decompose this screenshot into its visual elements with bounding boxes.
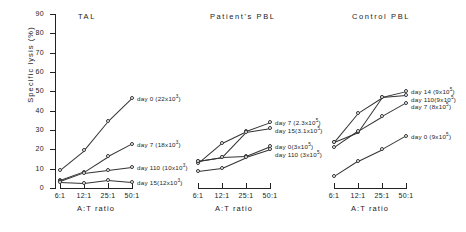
series-line-segment [108,144,132,157]
x-axis-line [60,188,132,189]
series-label-day-7: day 7 (8x105) [411,102,451,110]
data-point-marker[interactable] [404,101,408,105]
panel-title: TAL [78,12,96,21]
series-line-segment [358,116,383,131]
series-label-day-110: day 110 (10x103) [137,163,188,171]
x-tick-label: 25:1 [369,192,395,199]
figure-root: Specific lysis (%) 0102030405060708090 T… [0,0,466,232]
x-tick-label: 12:1 [345,192,371,199]
data-point-marker[interactable] [130,142,134,146]
data-point-marker[interactable] [332,145,336,149]
panel-title: Patient's PBL [210,12,276,21]
y-tick [50,53,56,54]
y-tick [50,111,56,112]
x-tick-label: 12:1 [71,192,97,199]
data-point-marker[interactable] [332,140,336,144]
series-line-segment [108,180,132,183]
x-tick-label: 50:1 [257,192,283,199]
data-point-marker[interactable] [106,178,110,182]
x-tick-label: 50:1 [393,192,419,199]
data-point-marker[interactable] [356,129,360,133]
data-point-marker[interactable] [268,126,272,130]
y-tick-label: 60 [18,68,44,75]
data-point-marker[interactable] [404,134,408,138]
series-line-segment [84,121,109,151]
data-point-marker[interactable] [58,168,62,172]
x-tick [198,183,199,189]
x-tick [108,183,109,189]
y-tick-label: 20 [18,145,44,152]
data-point-marker[interactable] [130,96,134,100]
y-tick-label: 90 [18,10,44,17]
x-tick-label: 6:1 [321,192,347,199]
x-tick [382,183,383,189]
data-point-marker[interactable] [82,171,86,175]
data-point-marker[interactable] [130,180,134,184]
data-point-marker[interactable] [106,119,110,123]
chart-panel-3: Control PBL6:112:125:150:1A:T ratioday 1… [334,0,466,232]
series-line-segment [358,149,382,162]
series-line-segment [222,157,246,169]
x-tick-label: 25:1 [95,192,121,199]
x-tick-label: 6:1 [185,192,211,199]
x-tick-label: 6:1 [47,192,73,199]
data-point-marker[interactable] [220,166,224,170]
series-label-day-15: day 15(12x103) [137,178,183,186]
data-point-marker[interactable] [332,174,336,178]
x-axis-label: A:T ratio [60,204,132,213]
x-axis-label: A:T ratio [334,204,406,213]
y-tick-label: 50 [18,87,44,94]
y-tick-label: 40 [18,107,44,114]
x-tick-label: 50:1 [119,192,145,199]
x-axis-line [198,188,270,189]
series-label-day-0: day 0 (22x103) [137,94,181,102]
data-point-marker[interactable] [196,169,200,173]
y-tick-label: 0 [18,184,44,191]
data-point-marker[interactable] [380,147,384,151]
series-line-segment [334,161,359,177]
data-point-marker[interactable] [268,120,272,124]
x-tick [406,183,407,189]
series-line-segment [198,168,222,172]
x-tick [222,183,223,189]
y-tick [50,149,56,150]
series-line-segment [382,103,406,117]
data-point-marker[interactable] [82,148,86,152]
data-point-marker[interactable] [404,93,408,97]
panel-title: Control PBL [352,12,410,21]
data-point-marker[interactable] [82,181,86,185]
x-tick [270,183,271,189]
data-point-marker[interactable] [244,155,248,159]
series-label-day-7: day 7 (18x103) [137,140,181,148]
x-axis-label: A:T ratio [198,204,270,213]
data-point-marker[interactable] [356,159,360,163]
data-point-marker[interactable] [196,159,200,163]
series-label-day-0: day 0 (9x105) [411,132,451,140]
series-line-segment [108,98,133,122]
data-point-marker[interactable] [130,165,134,169]
y-tick-label: 10 [18,165,44,172]
data-point-marker[interactable] [356,111,360,115]
data-point-marker[interactable] [268,147,272,151]
data-point-marker[interactable] [380,95,384,99]
data-point-marker[interactable] [220,141,224,145]
data-point-marker[interactable] [380,114,384,118]
data-point-marker[interactable] [106,168,110,172]
series-line-segment [382,136,406,150]
y-tick [50,169,56,170]
series-label-day-15: day 15(3.1x105) [275,126,323,134]
series-line-segment [222,131,246,144]
data-point-marker[interactable] [58,180,62,184]
y-tick-label: 70 [18,49,44,56]
x-tick-label: 25:1 [233,192,259,199]
series-line-segment [84,180,108,184]
y-tick [50,91,56,92]
series-label-day-110: day 110 (3x105) [275,150,322,158]
y-tick [50,33,56,34]
y-tick [50,14,56,15]
data-point-marker[interactable] [106,154,110,158]
data-point-marker[interactable] [220,155,224,159]
data-point-marker[interactable] [244,130,248,134]
y-tick-label: 30 [18,126,44,133]
y-tick [50,72,56,73]
